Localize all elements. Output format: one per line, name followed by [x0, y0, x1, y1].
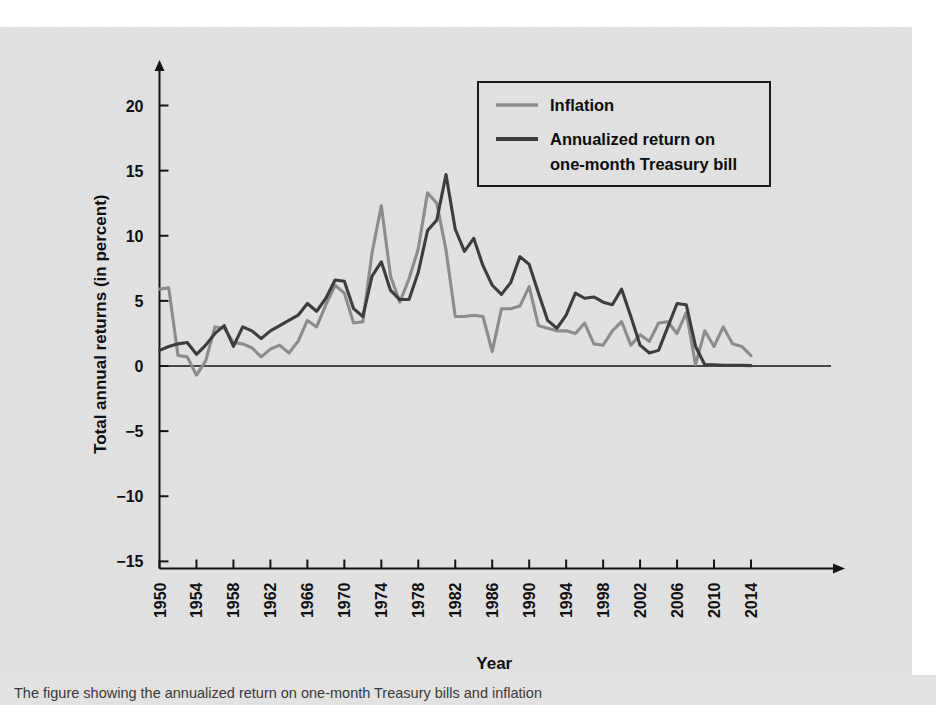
chart-legend: InflationAnnualized return onone-month T… — [478, 82, 770, 186]
x-tick-label: 2006 — [669, 582, 686, 618]
x-tick-label: 1986 — [484, 582, 501, 618]
x-axis — [160, 564, 846, 574]
y-tick-label: 15 — [126, 163, 144, 180]
x-tick-label: 1966 — [299, 582, 316, 618]
x-tick-label: 1978 — [410, 582, 427, 618]
y-tick-label: 5 — [135, 293, 144, 310]
x-tick-label: 1954 — [188, 582, 205, 618]
figure-caption-strip: The figure showing the annualized return… — [0, 675, 936, 705]
x-tick-label: 1998 — [595, 582, 612, 618]
y-tick-label: 0 — [135, 358, 144, 375]
x-tick-label: 1982 — [447, 582, 464, 618]
y-tick-label: −5 — [125, 423, 143, 440]
legend-label-inflation: Inflation — [550, 96, 614, 114]
series-line-tbill — [160, 175, 752, 366]
x-tick-label: 2014 — [743, 582, 760, 618]
x-tick-label: 2010 — [706, 582, 723, 618]
y-tick-label: 20 — [126, 98, 144, 115]
x-tick-label: 2002 — [632, 582, 649, 618]
y-tick-label: 10 — [126, 228, 144, 245]
chart-canvas: −15−10−505101520195019541958196219661970… — [0, 0, 936, 705]
x-tick-label: 1958 — [225, 582, 242, 618]
figure-page: −15−10−505101520195019541958196219661970… — [0, 0, 936, 705]
x-tick-label: 1990 — [521, 582, 538, 618]
y-axis-arrow-icon — [155, 60, 165, 71]
x-tick-label: 1970 — [336, 582, 353, 618]
y-tick-label: −15 — [116, 553, 143, 570]
x-axis-arrow-icon — [833, 564, 845, 574]
legend-label-tbill-line1: Annualized return on — [550, 130, 715, 148]
x-tick-label: 1974 — [373, 582, 390, 618]
x-tick-label: 1994 — [558, 582, 575, 618]
legend-label-tbill-line2: one-month Treasury bill — [550, 155, 737, 173]
figure-caption: The figure showing the annualized return… — [14, 685, 542, 701]
x-tick-label: 1962 — [262, 582, 279, 618]
x-axis-title: Year — [476, 654, 512, 673]
y-axis — [155, 60, 165, 569]
y-tick-label: −10 — [116, 488, 143, 505]
y-axis-title: Total annual returns (in percent) — [91, 195, 110, 454]
x-tick-label: 1950 — [152, 582, 169, 618]
y-axis-ticks: −15−10−505101520 — [116, 98, 168, 571]
